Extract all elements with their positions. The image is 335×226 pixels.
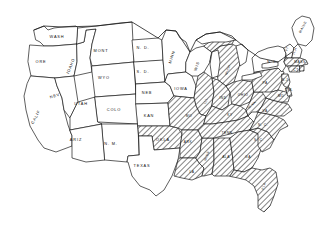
state-colorado[interactable]	[95, 94, 138, 124]
state-northdakota[interactable]	[132, 38, 163, 62]
lake-michigan	[210, 50, 220, 78]
state-wyoming[interactable]	[92, 62, 136, 97]
state-arizona[interactable]	[70, 124, 105, 162]
state-washington[interactable]	[34, 26, 78, 46]
state-georgia[interactable]	[230, 130, 262, 172]
state-oregon[interactable]	[28, 44, 77, 78]
state-maine[interactable]	[292, 16, 314, 46]
state-rhodeisland[interactable]	[300, 66, 304, 71]
us-map-svg: WASH ORE CALIF NEV IDAHO MONT WYO UTAH C…	[0, 0, 335, 226]
state-kansas[interactable]	[136, 103, 170, 126]
state-newhampshire[interactable]	[292, 44, 302, 58]
state-newjersey[interactable]	[282, 74, 290, 88]
state-massachusetts[interactable]	[284, 58, 308, 66]
states-layer	[24, 16, 314, 212]
state-florida[interactable]	[230, 168, 278, 212]
state-wisconsin[interactable]	[186, 46, 212, 76]
state-connecticut[interactable]	[288, 66, 300, 72]
state-southdakota[interactable]	[134, 60, 165, 84]
state-nebraska[interactable]	[136, 82, 174, 104]
us-map-figure: WASH ORE CALIF NEV IDAHO MONT WYO UTAH C…	[0, 0, 335, 226]
